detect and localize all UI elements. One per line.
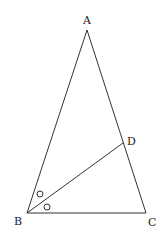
angle-mark-abd <box>37 191 43 197</box>
angle-mark-dbc <box>44 204 50 210</box>
triangle-diagram: A B C D <box>0 0 167 242</box>
segment-ab <box>27 30 87 213</box>
label-c: C <box>148 216 156 229</box>
label-a: A <box>82 14 92 27</box>
segment-ac <box>87 30 146 213</box>
segment-bd <box>27 143 123 213</box>
label-b: B <box>14 215 22 228</box>
label-d: D <box>127 135 136 148</box>
